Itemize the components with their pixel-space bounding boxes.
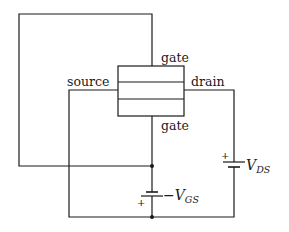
transistor-body xyxy=(118,66,184,116)
vds-subscript: DS xyxy=(255,164,271,175)
vgs-label: −VGS xyxy=(163,187,199,205)
gate-top-label: gate xyxy=(161,50,189,65)
junction-dot-bottom xyxy=(150,215,154,219)
drain-label: drain xyxy=(191,74,224,89)
gate-bottom-label: gate xyxy=(161,118,189,133)
source-label: source xyxy=(67,74,109,89)
junction-dot-gate xyxy=(150,164,154,168)
vgs-subscript: GS xyxy=(185,194,200,205)
circuit-diagram: gate gate source drain + −VGS + VDS xyxy=(0,0,289,232)
vds-label: VDS xyxy=(246,157,271,175)
vgs-plus-sign: + xyxy=(137,197,145,208)
vds-plus-sign: + xyxy=(221,150,229,161)
vgs-minus: − xyxy=(163,187,175,203)
